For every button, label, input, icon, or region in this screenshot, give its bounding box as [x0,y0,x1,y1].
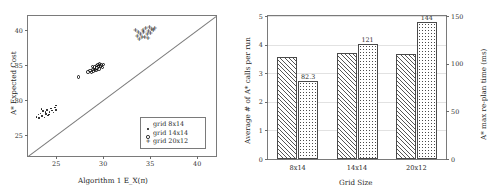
bar-category-label: 20x12 [398,164,434,172]
scatter-x-tick [197,156,198,159]
scatter-x-tick-label: 25 [51,160,61,168]
scatter-point-circle [101,66,104,69]
bar-y-tick-right [446,159,449,160]
scatter-y-tick [25,135,28,136]
scatter-y-tick-label: 40 [11,27,23,35]
bar-replan-8x14 [298,81,318,159]
scatter-legend: grid 8x14 grid 14x14 + grid 20x12 [140,117,206,149]
legend-label-2: grid 20x12 [152,137,188,145]
scatter-y-tick-label: 25 [11,132,23,140]
bar-y-tick-label-left: 5 [253,13,263,21]
bar-replan-20x12 [417,22,437,159]
bar-panel: 82.3121144 Average # of A* calls per run… [245,0,489,193]
bar-y-tick-label-right: 50 [451,108,459,116]
bar-y-tick-left [265,130,268,131]
scatter-y-tick-label: 35 [11,62,23,70]
legend-label-1: grid 14x14 [152,129,188,137]
scatter-y-tick [25,100,28,101]
bar-y-tick-label-left: 2 [253,98,263,106]
bar-calls-8x14 [277,57,297,159]
bar-value-label-8x14: 82.3 [295,73,321,81]
scatter-point-dot [44,117,46,119]
scatter-x-tick [103,156,104,159]
scatter-point-dot [55,109,57,111]
scatter-point-dot [38,117,40,119]
scatter-x-tick-label: 30 [98,160,108,168]
legend-item-0: grid 8x14 [144,120,202,129]
scatter-point-plus: + [135,30,140,35]
scatter-point-plus: + [145,36,150,41]
scatter-y-tick-label: 30 [11,97,23,105]
bar-y-tick-right [446,16,449,17]
scatter-point-dot [55,105,57,107]
bar-y-tick-right [446,64,449,65]
legend-item-2: + grid 20x12 [144,137,202,146]
legend-label-0: grid 8x14 [152,120,184,128]
scatter-point-circle [77,75,80,78]
bar-replan-14x14 [358,44,378,159]
scatter-panel: ++++++++++++++++++ A* Expected Cost Algo… [0,0,245,193]
bar-y-axis-title-right: A* max re-plan time (ms) [479,49,488,140]
bar-value-label-14x14: 121 [355,36,381,44]
scatter-point-dot [36,116,38,118]
scatter-point-dot [49,111,51,113]
bar-value-label-20x12: 144 [414,16,440,22]
bar-y-tick-label-right: 100 [451,60,464,68]
plus-marker-icon: + [144,137,152,146]
bar-y-tick-label-right: 0 [451,156,455,164]
scatter-x-tick [56,156,57,159]
scatter-point-circle [102,63,105,66]
bar-y-tick-label-left: 0 [253,156,263,164]
bar-y-tick-left [265,45,268,46]
bar-y-tick-left [265,159,268,160]
scatter-y-tick [25,30,28,31]
scatter-point-dot [41,115,43,117]
scatter-point-plus: + [140,28,145,33]
bar-y-tick-label-right: 150 [451,13,464,21]
bar-calls-14x14 [337,53,357,159]
bar-category-label: 14x14 [339,164,375,172]
bar-y-tick-label-left: 1 [253,127,263,135]
bar-data-area: 82.3121144 [268,16,446,159]
scatter-x-tick-label: 40 [192,160,202,168]
scatter-point-dot [40,113,42,115]
scatter-x-tick [150,156,151,159]
legend-item-1: grid 14x14 [144,129,202,138]
scatter-point-dot [50,108,52,110]
scatter-x-tick-label: 35 [145,160,155,168]
bar-y-axis-title-left: Average # of A* calls per run [243,37,252,144]
scatter-x-axis-title: Algorithm 1 E_X(π) [78,176,148,185]
bar-y-tick-left [265,16,268,17]
bar-y-tick-left [265,73,268,74]
scatter-point-dot [42,110,44,112]
bar-calls-20x12 [396,54,416,159]
bar-category-label: 8x14 [280,164,316,172]
scatter-point-dot [53,112,55,114]
scatter-y-tick [25,65,28,66]
bar-y-tick-label-left: 4 [253,41,263,49]
bar-y-tick-right [446,111,449,112]
scatter-point-dot [46,109,48,111]
scatter-point-dot [45,113,47,115]
scatter-point-circle [97,67,100,70]
scatter-point-plus: + [152,26,157,31]
bar-x-axis-title: Grid Size [339,178,373,187]
bar-y-tick-label-left: 3 [253,70,263,78]
bar-y-tick-left [265,102,268,103]
figure-container: ++++++++++++++++++ A* Expected Cost Algo… [0,0,489,193]
scatter-point-dot [38,114,40,116]
